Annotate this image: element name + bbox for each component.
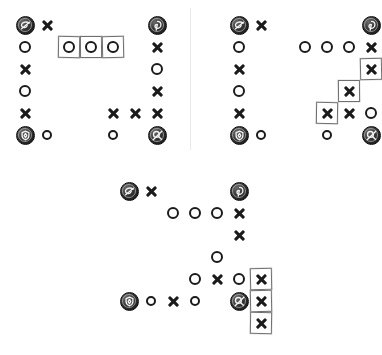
cell-x[interactable]: [228, 202, 250, 224]
cell-o-highlighted[interactable]: [58, 36, 80, 58]
cell-o-highlighted[interactable]: [102, 36, 124, 58]
cell-x-highlighted[interactable]: [360, 58, 382, 80]
o-mark-icon: [146, 296, 156, 306]
o-mark-icon: [321, 41, 333, 53]
cell-o[interactable]: [146, 58, 168, 80]
cell-x[interactable]: [124, 102, 146, 124]
cell-o[interactable]: [140, 290, 162, 312]
cell-o[interactable]: [294, 36, 316, 58]
cell-x-highlighted[interactable]: [250, 312, 272, 334]
cell-x[interactable]: [338, 102, 360, 124]
x-mark-icon: [254, 294, 267, 307]
cell-token[interactable]: [118, 290, 140, 312]
x-mark-icon: [19, 107, 32, 120]
cell-o[interactable]: [206, 246, 228, 268]
cell-o[interactable]: [250, 124, 272, 146]
cell-x[interactable]: [228, 58, 250, 80]
panel-divider: [190, 8, 191, 150]
cell-o[interactable]: [184, 202, 206, 224]
cell-x[interactable]: [102, 102, 124, 124]
cell-x[interactable]: [228, 102, 250, 124]
cell-o[interactable]: [102, 124, 124, 146]
o-mark-icon: [299, 41, 311, 53]
token-loop-icon: [148, 16, 167, 35]
cell-token[interactable]: [228, 14, 250, 36]
x-mark-icon: [233, 207, 246, 220]
o-mark-icon: [189, 273, 201, 285]
cell-x[interactable]: [146, 80, 168, 102]
cell-x-highlighted[interactable]: [316, 102, 338, 124]
cell-o[interactable]: [184, 290, 206, 312]
token-key-icon: [362, 126, 381, 145]
cell-x[interactable]: [206, 268, 228, 290]
o-mark-icon: [190, 296, 200, 306]
cell-x[interactable]: [250, 14, 272, 36]
cell-x[interactable]: [228, 224, 250, 246]
cell-o[interactable]: [228, 80, 250, 102]
top-left-board: [14, 14, 168, 146]
cell-x[interactable]: [14, 58, 36, 80]
top-right-board: [228, 14, 382, 146]
cell-o[interactable]: [228, 268, 250, 290]
x-mark-icon: [320, 106, 333, 119]
cell-token[interactable]: [14, 14, 36, 36]
o-mark-icon: [211, 251, 223, 263]
cell-x-highlighted[interactable]: [250, 290, 272, 312]
token-loop-icon: [362, 16, 381, 35]
cell-x[interactable]: [162, 290, 184, 312]
o-mark-icon: [42, 130, 52, 140]
cell-x[interactable]: [140, 180, 162, 202]
cell-x[interactable]: [146, 36, 168, 58]
x-mark-icon: [151, 85, 164, 98]
cell-token[interactable]: [228, 180, 250, 202]
cell-x[interactable]: [14, 102, 36, 124]
token-key-icon: [230, 292, 249, 311]
o-mark-icon: [365, 107, 377, 119]
token-swirl-icon: [120, 182, 139, 201]
x-mark-icon: [145, 185, 158, 198]
cell-x[interactable]: [360, 36, 382, 58]
cell-token[interactable]: [146, 124, 168, 146]
x-mark-icon: [41, 19, 54, 32]
o-mark-icon: [256, 130, 266, 140]
bottom-board: [118, 180, 294, 334]
token-shield-icon: [120, 292, 139, 311]
cell-o[interactable]: [316, 36, 338, 58]
cell-x-highlighted[interactable]: [338, 80, 360, 102]
cell-token[interactable]: [146, 14, 168, 36]
cell-o[interactable]: [360, 102, 382, 124]
o-mark-icon: [19, 85, 31, 97]
x-mark-icon: [233, 63, 246, 76]
o-mark-icon: [322, 130, 332, 140]
cell-x-highlighted[interactable]: [250, 268, 272, 290]
x-mark-icon: [151, 107, 164, 120]
x-mark-icon: [254, 272, 267, 285]
cell-x[interactable]: [36, 14, 58, 36]
cell-token[interactable]: [228, 124, 250, 146]
cell-token[interactable]: [360, 14, 382, 36]
x-mark-icon: [151, 41, 164, 54]
o-mark-icon: [63, 41, 75, 53]
o-mark-icon: [233, 41, 245, 53]
o-mark-icon: [211, 207, 223, 219]
cell-o[interactable]: [184, 268, 206, 290]
x-mark-icon: [19, 63, 32, 76]
cell-o[interactable]: [14, 80, 36, 102]
x-mark-icon: [167, 295, 180, 308]
cell-o-highlighted[interactable]: [80, 36, 102, 58]
cell-o[interactable]: [228, 36, 250, 58]
cell-token[interactable]: [228, 290, 250, 312]
token-swirl-icon: [230, 16, 249, 35]
cell-token[interactable]: [14, 124, 36, 146]
cell-o[interactable]: [206, 202, 228, 224]
cell-o[interactable]: [338, 36, 360, 58]
cell-o[interactable]: [162, 202, 184, 224]
token-shield-icon: [16, 126, 35, 145]
cell-o[interactable]: [14, 36, 36, 58]
cell-o[interactable]: [316, 124, 338, 146]
x-mark-icon: [342, 84, 355, 97]
cell-x[interactable]: [146, 102, 168, 124]
cell-token[interactable]: [118, 180, 140, 202]
cell-o[interactable]: [36, 124, 58, 146]
cell-token[interactable]: [360, 124, 382, 146]
